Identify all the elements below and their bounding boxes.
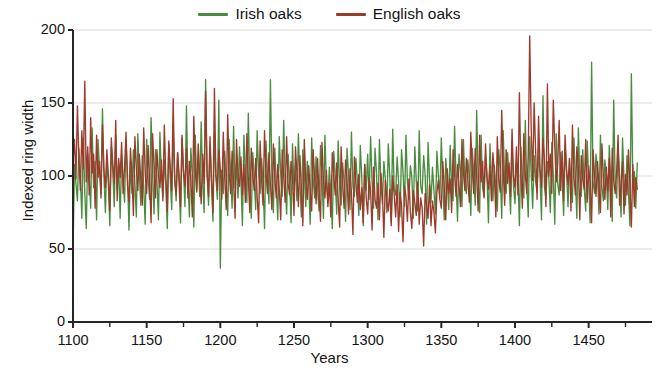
- x-axis-title: Years: [0, 349, 659, 366]
- x-tick-label-1100: 1100: [43, 332, 103, 348]
- plot-area: 0501001502001100115012001250130013501400…: [0, 0, 659, 374]
- y-tick-label-0: 0: [11, 313, 65, 329]
- x-tick-label-1200: 1200: [190, 332, 250, 348]
- x-tick-label-1300: 1300: [338, 332, 398, 348]
- series-lines: [73, 36, 637, 268]
- x-tick-label-1150: 1150: [117, 332, 177, 348]
- y-axis-title: Indexed ring width: [19, 61, 36, 261]
- y-tick-label-200: 200: [11, 21, 65, 37]
- x-tick-label-1250: 1250: [264, 332, 324, 348]
- x-tick-label-1400: 1400: [485, 332, 545, 348]
- plot-canvas: [0, 0, 659, 374]
- x-tick-label-1450: 1450: [559, 332, 619, 348]
- x-tick-label-1350: 1350: [411, 332, 471, 348]
- ring-width-chart: Irish oaks English oaks 0501001502001100…: [0, 0, 659, 374]
